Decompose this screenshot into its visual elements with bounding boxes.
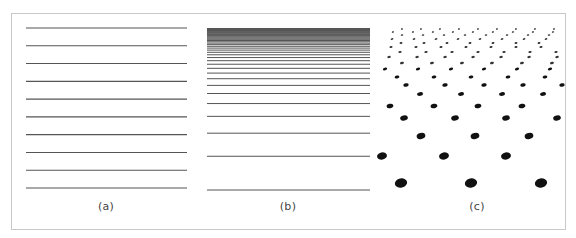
caption-b: (b) <box>268 200 308 213</box>
caption-c: (c) <box>457 200 497 213</box>
caption-a: (a) <box>86 200 126 213</box>
